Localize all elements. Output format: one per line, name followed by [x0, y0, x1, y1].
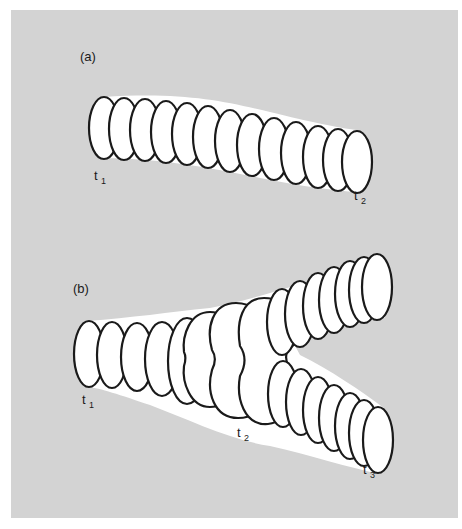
svg-text:2: 2	[361, 196, 366, 206]
svg-text:t: t	[94, 168, 98, 183]
svg-text:1: 1	[101, 176, 106, 186]
cross-section	[362, 254, 392, 320]
svg-text:3: 3	[370, 470, 375, 480]
svg-text:t: t	[237, 425, 241, 440]
panel-a-label: (a)	[80, 49, 96, 64]
svg-text:t: t	[82, 392, 86, 407]
svg-text:t: t	[363, 462, 367, 477]
cross-section	[363, 407, 393, 473]
cross-section	[342, 131, 372, 193]
svg-text:1: 1	[89, 400, 94, 410]
svg-text:2: 2	[244, 433, 249, 443]
svg-text:t: t	[354, 188, 358, 203]
figure: (a) t 1 t 2 (b)	[0, 0, 462, 529]
panel-b-label: (b)	[73, 281, 89, 296]
